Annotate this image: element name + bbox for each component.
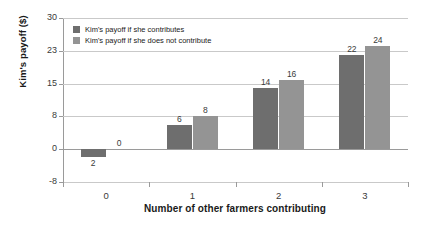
- y-tick-label: -8: [31, 176, 57, 186]
- y-tick-mark: [59, 51, 63, 52]
- legend-item-contributes: Kim's payoff if she contributes: [73, 25, 211, 34]
- bar: [339, 55, 364, 149]
- x-tick-mark: [322, 182, 323, 187]
- bar: [365, 46, 390, 149]
- x-tick-mark: [236, 182, 237, 187]
- y-tick-label: 15: [31, 78, 57, 88]
- bar-value-label: 22: [337, 44, 367, 54]
- y-tick-mark: [59, 84, 63, 85]
- x-axis-title: Number of other farmers contributing: [55, 203, 415, 214]
- legend-swatch-icon-not-contributes: [73, 37, 80, 44]
- bar-value-label: 8: [190, 105, 220, 115]
- x-tick-mark: [408, 182, 409, 187]
- legend-label-not-contributes: Kim's payoff if she does not contribute: [85, 36, 211, 45]
- gridline: [63, 18, 408, 19]
- bar-value-label: 0: [104, 138, 134, 148]
- bar: [167, 125, 192, 150]
- x-tick-label: 0: [86, 190, 126, 201]
- y-tick-mark: [59, 116, 63, 117]
- plot-area: 30231580-8 0123 206814162224 Kim's payof…: [63, 18, 408, 182]
- x-tick-mark: [63, 182, 64, 187]
- bar-value-label: 14: [251, 77, 281, 87]
- y-axis-line: [63, 18, 64, 183]
- bar: [279, 80, 304, 150]
- bar-value-label: 16: [277, 69, 307, 79]
- bar: [193, 116, 218, 149]
- bar-chart: Kim's payoff ($) Number of other farmers…: [0, 0, 433, 229]
- y-tick-label: 8: [31, 110, 57, 120]
- y-tick-mark: [59, 149, 63, 150]
- y-tick-label: 23: [31, 45, 57, 55]
- bar-value-label: 24: [363, 35, 393, 45]
- x-tick-label: 2: [259, 190, 299, 201]
- x-tick-label: 3: [345, 190, 385, 201]
- bar: [81, 149, 106, 157]
- legend-label-contributes: Kim's payoff if she contributes: [85, 25, 184, 34]
- bar-value-label: 2: [78, 158, 108, 168]
- y-axis-title: Kim's payoff ($): [17, 0, 28, 112]
- bar: [253, 88, 278, 149]
- y-tick-label: 0: [31, 143, 57, 153]
- legend: Kim's payoff if she contributes Kim's pa…: [73, 25, 211, 47]
- x-tick-mark: [149, 182, 150, 187]
- legend-swatch-icon-contributes: [73, 26, 80, 33]
- y-tick-label: 30: [31, 12, 57, 22]
- y-tick-mark: [59, 18, 63, 19]
- x-tick-label: 1: [172, 190, 212, 201]
- legend-item-not-contributes: Kim's payoff if she does not contribute: [73, 36, 211, 45]
